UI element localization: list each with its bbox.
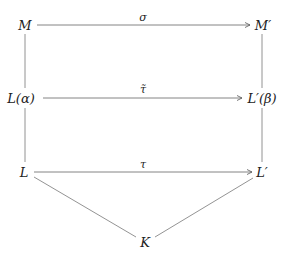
node-L: L [20,166,29,179]
label-tau: τ [140,159,146,170]
line-Lprime-K [155,178,253,237]
label-tau-tilde: τ̃ [140,84,146,95]
node-M: M [18,19,31,32]
line-L-K [34,177,136,237]
node-M-prime: M′ [255,19,271,32]
label-sigma: σ [139,12,147,23]
node-K: K [140,236,150,249]
node-L-prime-beta: L′(β) [247,92,276,105]
node-L-alpha: L(α) [7,92,35,105]
diagram-edges [0,0,285,260]
commutative-diagram: M M′ L(α) L′(β) L L′ K σ τ̃ τ [0,0,285,260]
node-L-prime: L′ [256,166,268,179]
